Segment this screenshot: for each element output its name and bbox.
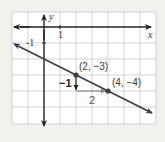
run-label: 2: [89, 95, 95, 106]
rise-label: −1: [59, 78, 72, 89]
y-tick-label: -1: [26, 38, 34, 48]
y-axis-label: y: [49, 12, 53, 22]
x-axis-label: x: [148, 30, 152, 40]
point-4-neg4: [105, 88, 110, 93]
coordinate-plane: y x 1 -1 (2, −3) (4, −4) −1 2: [0, 0, 165, 142]
point-label-4-neg4: (4, −4): [112, 78, 141, 88]
point-2-neg3: [73, 72, 78, 77]
x-tick-label: 1: [58, 30, 63, 40]
point-label-2-neg3: (2, −3): [79, 62, 108, 72]
